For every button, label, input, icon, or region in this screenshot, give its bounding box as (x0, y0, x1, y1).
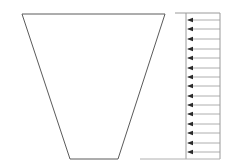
arrowhead-left-icon (187, 56, 193, 61)
pressure-arrow (187, 66, 220, 71)
arrowhead-left-icon (187, 103, 193, 108)
pressure-arrow (187, 47, 220, 52)
pressure-arrow (187, 150, 220, 155)
pressure-arrow (187, 112, 220, 117)
pressure-arrow (187, 103, 220, 108)
arrowhead-left-icon (187, 18, 193, 23)
pressure-arrow (187, 37, 220, 42)
arrowhead-left-icon (187, 122, 193, 127)
arrowhead-left-icon (187, 94, 193, 99)
arrowhead-left-icon (187, 84, 193, 89)
pressure-arrow (187, 27, 220, 32)
pressure-arrow (187, 84, 220, 89)
pressure-arrow (187, 94, 220, 99)
arrowhead-left-icon (187, 131, 193, 136)
dam-cross-section (22, 14, 165, 159)
pressure-arrow (187, 122, 220, 127)
pressure-arrow (187, 18, 220, 23)
uniform-pressure-load (175, 13, 220, 159)
arrowhead-left-icon (187, 141, 193, 146)
arrowhead-left-icon (187, 150, 193, 155)
arrowhead-left-icon (187, 27, 193, 32)
arrowhead-left-icon (187, 112, 193, 117)
pressure-arrow (187, 141, 220, 146)
dam-load-diagram (0, 0, 234, 168)
pressure-arrow (187, 131, 220, 136)
arrowhead-left-icon (187, 47, 193, 52)
dam-outline (22, 14, 165, 159)
arrowhead-left-icon (187, 66, 193, 71)
pressure-arrow (187, 56, 220, 61)
pressure-arrow (187, 75, 220, 80)
arrowhead-left-icon (187, 75, 193, 80)
arrowhead-left-icon (187, 37, 193, 42)
diagram-canvas (0, 0, 234, 168)
